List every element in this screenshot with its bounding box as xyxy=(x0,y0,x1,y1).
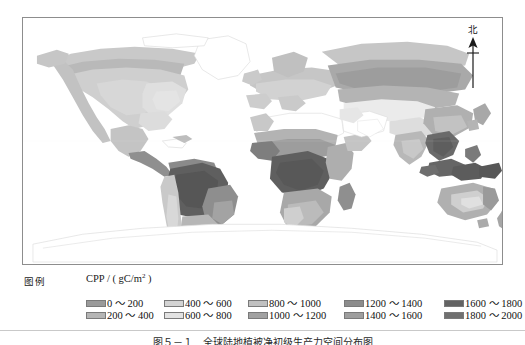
legend-class-grid: 0 ～ 200 400 ～ 600 800 ～ 1000 1200 ～ 1400… xyxy=(86,294,506,318)
legend-swatch-1800-2000 xyxy=(444,312,464,319)
north-arrow-label: 北 xyxy=(460,24,486,35)
legend-item-1200-1400[interactable]: 1200 ～ 1400 xyxy=(344,294,440,306)
caption-divider xyxy=(0,330,525,331)
legend-swatch-0-200 xyxy=(86,300,106,307)
legend-label-600-800: 600 ～ 800 xyxy=(185,310,232,322)
map-frame[interactable]: 北 xyxy=(22,17,503,265)
north-arrow: 北 xyxy=(460,24,486,94)
figure-caption: 图５－１ 全球陆地植被净初级生产力空间分布图 xyxy=(0,334,525,345)
legend-item-200-400[interactable]: 200 ～ 400 xyxy=(86,306,160,318)
legend-swatch-800-1000 xyxy=(248,300,268,307)
legend-swatch-1000-1200 xyxy=(248,312,268,319)
legend-label-200-400: 200 ～ 400 xyxy=(107,310,154,322)
legend-unit-label: CPP / ( gC/m2 ) xyxy=(86,273,152,284)
legend-item-0-200[interactable]: 0 ～ 200 xyxy=(86,294,160,306)
legend-item-400-600[interactable]: 400 ～ 600 xyxy=(164,294,244,306)
legend-item-800-1000[interactable]: 800 ～ 1000 xyxy=(248,294,340,306)
legend-swatch-400-600 xyxy=(164,300,184,307)
legend-item-600-800[interactable]: 600 ～ 800 xyxy=(164,306,244,318)
world-map-graphic xyxy=(23,18,502,264)
figure-cpp-world-map: 北 图例 CPP / ( gC/m2 ) 0 ～ 200 400 ～ 600 8… xyxy=(0,0,525,345)
legend-row-bottom: 200 ～ 400 600 ～ 800 1000 ～ 1200 1400 ～ 1… xyxy=(86,306,506,318)
legend-item-1400-1600[interactable]: 1400 ～ 1600 xyxy=(344,306,440,318)
legend-unit-prefix: CPP / ( gC/m xyxy=(86,273,142,284)
legend-swatch-1400-1600 xyxy=(344,312,364,319)
north-arrow-icon xyxy=(464,36,482,90)
legend-label-1000-1200: 1000 ～ 1200 xyxy=(269,310,326,322)
legend-swatch-600-800 xyxy=(164,312,184,319)
legend-swatch-200-400 xyxy=(86,312,106,319)
legend-item-1600-1800[interactable]: 1600 ～ 1800 xyxy=(444,294,522,306)
legend-swatch-1200-1400 xyxy=(344,300,364,307)
legend-swatch-1600-1800 xyxy=(444,300,464,307)
legend-heading: 图例 xyxy=(24,274,45,288)
legend-label-1400-1600: 1400 ～ 1600 xyxy=(365,310,422,322)
legend-row-top: 0 ～ 200 400 ～ 600 800 ～ 1000 1200 ～ 1400… xyxy=(86,294,506,306)
legend-item-1800-2000[interactable]: 1800 ～ 2000 xyxy=(444,306,522,318)
legend-item-1000-1200[interactable]: 1000 ～ 1200 xyxy=(248,306,340,318)
legend: 图例 CPP / ( gC/m2 ) 0 ～ 200 400 ～ 600 800… xyxy=(0,272,525,324)
legend-label-1800-2000: 1800 ～ 2000 xyxy=(465,310,522,322)
legend-unit-suffix: ) xyxy=(145,273,151,284)
